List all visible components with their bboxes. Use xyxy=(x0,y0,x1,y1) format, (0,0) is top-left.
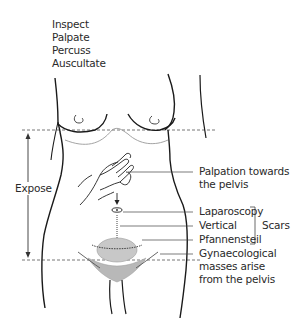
scars-group-label: Scars xyxy=(262,219,290,232)
palpation-direction-arrow-icon xyxy=(115,193,120,205)
scar-vertical-label: Vertical xyxy=(199,219,237,232)
left-inner-thigh xyxy=(110,280,112,314)
masses-label-line3: from the pelvis xyxy=(199,273,275,286)
palpation-label-line2: the pelvis xyxy=(199,178,248,191)
palpating-hand-illustration xyxy=(78,153,133,205)
step-palpate: Palpate xyxy=(52,31,90,44)
umbilicus-icon xyxy=(112,208,122,212)
scar-pfannensteil-label: Pfannensteil xyxy=(199,233,261,246)
expose-label: Expose xyxy=(14,182,53,195)
masses-label-line2: masses arise xyxy=(199,260,265,273)
step-percuss: Percuss xyxy=(52,44,90,57)
palpation-label-line1: Palpation towards xyxy=(199,165,289,178)
inguinal-line-left xyxy=(78,252,100,268)
step-auscultate: Auscultate xyxy=(52,57,106,70)
masses-label-line1: Gynaecological xyxy=(199,247,276,260)
right-arm-outline xyxy=(200,75,206,138)
step-inspect: Inspect xyxy=(52,18,89,31)
pelvic-mass xyxy=(97,238,137,262)
left-breast-outline xyxy=(58,114,107,132)
left-arm-outline xyxy=(51,122,58,160)
right-inner-thigh xyxy=(122,280,126,314)
expose-arrow-icon xyxy=(26,133,31,258)
right-nipple-icon xyxy=(150,116,159,124)
left-nipple-icon xyxy=(74,115,83,123)
torso-right-outline xyxy=(168,130,187,318)
abdominal-exam-diagram: Inspect Palpate Percuss Auscultate Expos… xyxy=(0,0,303,334)
scar-laparoscopy-label: Laparoscopy xyxy=(199,205,263,218)
